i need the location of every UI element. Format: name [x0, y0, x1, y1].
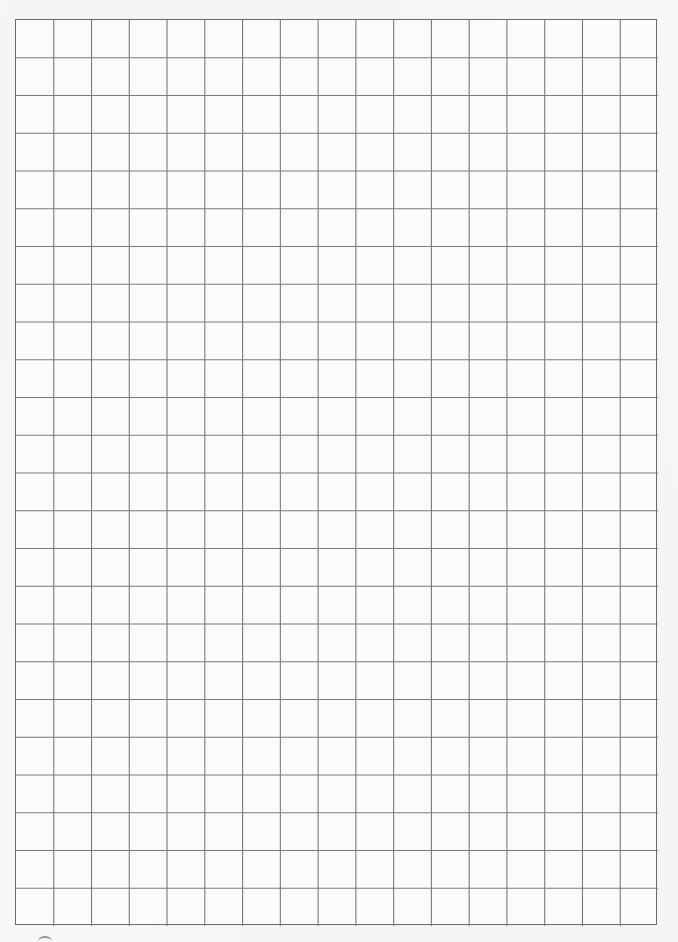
grid-lines — [16, 20, 658, 926]
graph-paper-grid — [15, 19, 657, 925]
scan-artifact-mark — [38, 936, 52, 942]
